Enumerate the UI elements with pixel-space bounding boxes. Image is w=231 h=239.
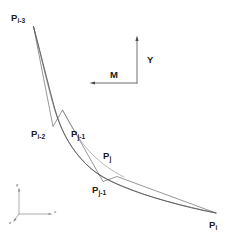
point-base-p-j-1: P [71, 128, 77, 139]
point-label-p-j-minus-1: Pj-1 [92, 185, 106, 195]
point-base-p-j-minus-1: P [92, 184, 98, 195]
point-base-p-i-3: P [11, 12, 17, 23]
spline-curve-inner [34, 27, 217, 214]
triad-y-arrow-head [18, 188, 20, 192]
curve-refinement-diagram: Pi-3 Pi-2 Pj-1 Pj Pj-1 Pi Y M y x z [0, 0, 231, 239]
m-arrow-head [90, 81, 96, 84]
triad-y-label: y [16, 183, 18, 187]
y-arrow-head [135, 36, 138, 42]
point-label-p-i-3: Pi-3 [11, 13, 25, 23]
spline-curve [34, 27, 217, 214]
triad-z-label: z [9, 221, 11, 225]
triad-z-arrow-head [13, 218, 17, 222]
m-direction-label: M [110, 70, 118, 80]
triad-x-arrow-head [49, 213, 53, 215]
m-direction-arrow [90, 81, 138, 84]
point-label-p-j: Pj [103, 151, 111, 161]
point-base-p-i: P [209, 219, 215, 230]
point-label-p-i: Pi [209, 220, 217, 230]
point-label-p-i-2: Pi-2 [31, 129, 45, 139]
point-base-p-i-2: P [31, 128, 37, 139]
control-polyline [34, 27, 217, 214]
point-subscript-p-j-minus-1: j-1 [99, 189, 107, 196]
y-direction-arrow [135, 36, 138, 84]
point-subscript-p-i-2: i-2 [38, 133, 46, 140]
point-subscript-p-i-3: i-3 [18, 17, 26, 24]
point-subscript-p-j-1: j-1 [78, 133, 86, 140]
diagram-canvas [0, 0, 231, 239]
point-base-p-j: P [103, 150, 109, 161]
xyz-coordinate-triad [13, 188, 53, 223]
chord-curve [63, 110, 125, 177]
point-label-p-j-1: Pj-1 [71, 129, 85, 139]
y-direction-label: Y [147, 55, 153, 65]
triad-x-label: x [54, 210, 56, 214]
